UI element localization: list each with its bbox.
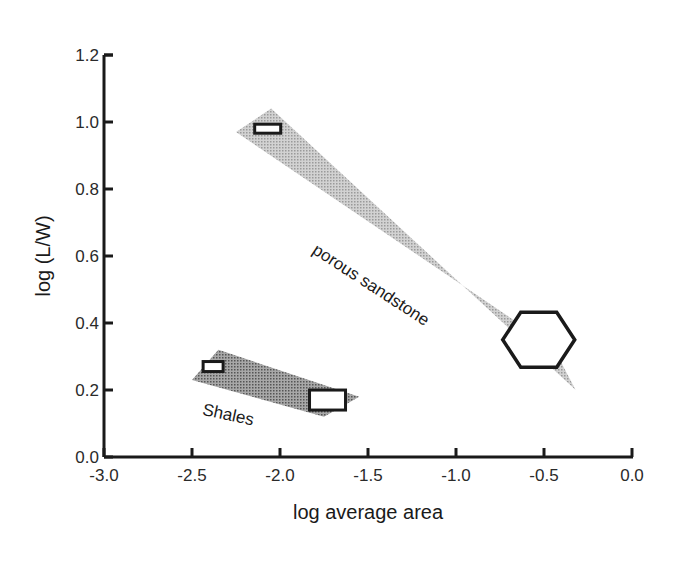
y-tick-label: 0.6 xyxy=(75,247,99,266)
x-axis: -3.0-2.5-2.0-1.5-1.0-0.50.0 xyxy=(89,448,643,485)
x-tick-label: -3.0 xyxy=(89,466,118,485)
shaded-regions xyxy=(192,109,576,417)
hexagon-marker xyxy=(503,312,575,367)
y-tick-label: 0.8 xyxy=(75,180,99,199)
rectangle-marker xyxy=(310,390,346,410)
annotation-shales: Shales xyxy=(201,400,256,429)
x-axis-title: log average area xyxy=(293,501,444,523)
y-tick-label: 0.2 xyxy=(75,381,99,400)
rectangle-marker xyxy=(203,362,223,372)
y-tick-label: 0.4 xyxy=(75,314,99,333)
y-tick-label: 1.0 xyxy=(75,113,99,132)
x-tick-label: -1.0 xyxy=(441,466,470,485)
x-tick-label: -2.5 xyxy=(177,466,206,485)
x-tick-label: 0.0 xyxy=(620,466,644,485)
y-tick-label: 0.0 xyxy=(75,448,99,467)
y-axis-title: log (L/W) xyxy=(32,215,54,296)
rectangle-marker xyxy=(255,124,281,133)
x-tick-label: -1.5 xyxy=(353,466,382,485)
y-tick-label: 1.2 xyxy=(75,46,99,65)
x-tick-label: -0.5 xyxy=(529,466,558,485)
x-tick-label: -2.0 xyxy=(265,466,294,485)
annotation-porous-sandstone: porous sandstone xyxy=(309,240,433,330)
y-axis: 0.00.20.40.60.81.01.2 xyxy=(75,46,113,467)
chart-canvas: porous sandstoneShales 0.00.20.40.60.81.… xyxy=(0,0,673,561)
